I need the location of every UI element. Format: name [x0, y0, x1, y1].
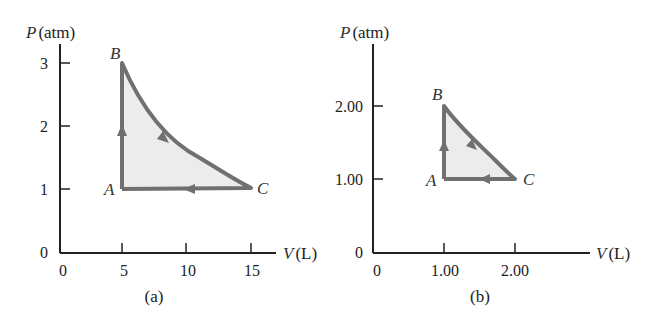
- point-label-a: A: [425, 171, 437, 190]
- y-axis-label-b: P(atm): [339, 23, 389, 42]
- x-tick-label: 10: [180, 262, 196, 279]
- y-tick-label: 2.00: [335, 98, 363, 115]
- y-tick-label: 0: [40, 244, 48, 261]
- panel-caption-b: (b): [470, 287, 490, 306]
- point-label-a: A: [103, 180, 115, 199]
- y-tick-label: 2: [40, 118, 48, 135]
- y-tick-label: 3: [40, 55, 48, 72]
- panel-a: 3 2 1 0 0 5 10 15 P(atm) V(L) B A C (a): [25, 23, 317, 306]
- point-label-b: B: [432, 85, 443, 104]
- y-tick-label: 1.00: [335, 171, 363, 188]
- x-axis-label-a: V(L): [283, 244, 317, 263]
- y-axis-label-a: P(atm): [25, 23, 75, 42]
- point-label-b: B: [110, 44, 121, 63]
- point-label-c: C: [257, 179, 269, 198]
- cycle-area-a: [122, 63, 251, 189]
- x-tick-label: 2.00: [501, 262, 529, 279]
- y-tick-label: 0: [355, 244, 363, 261]
- pv-diagrams: 3 2 1 0 0 5 10 15 P(atm) V(L) B A C (a): [0, 0, 651, 325]
- x-tick-label: 1.00: [431, 262, 459, 279]
- y-tick-label: 1: [40, 181, 48, 198]
- x-tick-label: 0: [373, 262, 381, 279]
- panel-b: 2.00 1.00 0 0 1.00 2.00 P(atm) V(L) B A …: [335, 23, 630, 306]
- point-label-c: C: [523, 170, 535, 189]
- x-tick-label: 15: [244, 262, 260, 279]
- x-axis-label-b: V(L): [596, 244, 630, 263]
- panel-caption-a: (a): [145, 287, 164, 306]
- x-tick-label: 0: [59, 262, 67, 279]
- x-tick-label: 5: [120, 262, 128, 279]
